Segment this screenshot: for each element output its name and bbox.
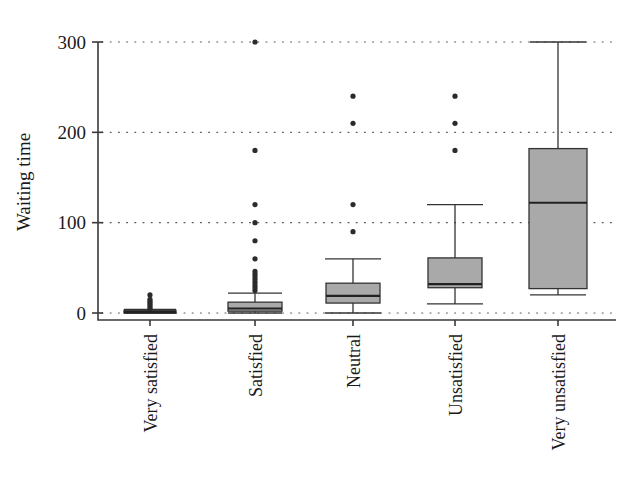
outlier-point-0-6	[147, 292, 152, 297]
outlier-point-1-7	[252, 269, 257, 274]
x-tick-label-2: Neutral	[344, 334, 364, 388]
outlier-point-2-0	[350, 229, 355, 234]
x-tick-label-1: Satisfied	[246, 334, 266, 397]
outlier-point-1-10	[252, 220, 257, 225]
outlier-point-3-2	[452, 94, 457, 99]
y-tick-label-300: 300	[58, 32, 87, 53]
y-axis-label: Waiting time	[13, 133, 34, 231]
boxplot-canvas: 0100200300 Very satisfiedSatisfiedNeutra…	[0, 0, 635, 489]
outlier-point-1-9	[252, 238, 257, 243]
outlier-point-0-5	[147, 297, 152, 302]
y-axis-title: Waiting time	[13, 133, 34, 231]
outlier-point-3-1	[452, 121, 457, 126]
outlier-point-1-13	[252, 39, 257, 44]
y-tick-label-0: 0	[77, 303, 87, 324]
x-tick-label-3: Unsatisfied	[446, 334, 466, 416]
x-tick-label-0: Very satisfied	[141, 334, 161, 432]
outlier-point-2-3	[350, 94, 355, 99]
y-tick-label-200: 200	[58, 122, 87, 143]
boxplot-figure: 0100200300 Very satisfiedSatisfiedNeutra…	[0, 0, 635, 489]
outlier-point-1-8	[252, 256, 257, 261]
y-tick-label-100: 100	[58, 212, 87, 233]
outlier-point-1-11	[252, 202, 257, 207]
box-rect-4	[529, 149, 587, 289]
x-tick-label-4: Very unsatisfied	[549, 334, 569, 450]
outlier-point-2-1	[350, 202, 355, 207]
outlier-point-2-2	[350, 121, 355, 126]
box-rect-2	[326, 283, 380, 303]
box-rect-1	[228, 302, 282, 311]
outlier-point-3-0	[452, 148, 457, 153]
outlier-point-1-12	[252, 148, 257, 153]
